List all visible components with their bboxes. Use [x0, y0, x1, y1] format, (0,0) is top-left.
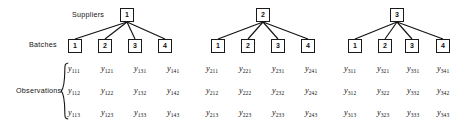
observation-y332: y332	[407, 86, 419, 95]
observation-y112: y112	[68, 86, 80, 95]
batch-box-1-2[interactable]: 2	[98, 39, 112, 53]
batch-box-2-1[interactable]: 1	[211, 39, 225, 53]
observation-y113: y113	[68, 108, 80, 117]
supplier-box-1[interactable]: 1	[120, 8, 134, 22]
observation-y313: y313	[344, 108, 356, 117]
observation-y123: y123	[101, 108, 113, 117]
observation-y211: y211	[206, 64, 218, 73]
observation-y122: y122	[101, 86, 113, 95]
observation-y232: y232	[272, 86, 284, 95]
observation-y342: y342	[437, 86, 449, 95]
observation-y142: y142	[167, 86, 179, 95]
batch-box-1-4[interactable]: 4	[158, 39, 172, 53]
observation-y143: y143	[167, 108, 179, 117]
row-label-suppliers: Suppliers	[72, 10, 104, 19]
observation-y311: y311	[344, 64, 356, 73]
row-label-observations: Observations	[16, 86, 61, 95]
batch-box-3-4[interactable]: 4	[436, 39, 450, 53]
batch-box-3-2[interactable]: 2	[378, 39, 392, 53]
observation-y132: y132	[134, 86, 146, 95]
observation-y121: y121	[101, 64, 113, 73]
batch-box-2-4[interactable]: 4	[301, 39, 315, 53]
observation-y222: y222	[239, 86, 251, 95]
batch-box-3-1[interactable]: 1	[348, 39, 362, 53]
observation-y233: y233	[272, 108, 284, 117]
observation-y341: y341	[437, 64, 449, 73]
observation-y131: y131	[134, 64, 146, 73]
batch-box-2-3[interactable]: 3	[271, 39, 285, 53]
observation-y343: y343	[437, 108, 449, 117]
observation-y213: y213	[206, 108, 218, 117]
observation-y321: y321	[377, 64, 389, 73]
observation-y331: y331	[407, 64, 419, 73]
batch-box-1-1[interactable]: 1	[68, 39, 82, 53]
observation-y212: y212	[206, 86, 218, 95]
observation-y241: y241	[305, 64, 317, 73]
observation-y141: y141	[167, 64, 179, 73]
observation-y133: y133	[134, 108, 146, 117]
observation-y221: y221	[239, 64, 251, 73]
row-label-batches: Batches	[29, 40, 57, 49]
observation-y111: y111	[68, 64, 80, 73]
batch-box-1-3[interactable]: 3	[128, 39, 142, 53]
observation-y242: y242	[305, 86, 317, 95]
batch-box-3-3[interactable]: 3	[405, 39, 419, 53]
observation-y223: y223	[239, 108, 251, 117]
nested-design-diagram: Suppliers Batches Observations 1 2 3 1 2…	[0, 0, 462, 132]
observation-y312: y312	[344, 86, 356, 95]
batch-box-2-2[interactable]: 2	[241, 39, 255, 53]
observation-y333: y333	[407, 108, 419, 117]
observation-y231: y231	[272, 64, 284, 73]
supplier-box-2[interactable]: 2	[256, 8, 270, 22]
observation-y322: y322	[377, 86, 389, 95]
observation-y243: y243	[305, 108, 317, 117]
observation-y323: y323	[377, 108, 389, 117]
supplier-box-3[interactable]: 3	[390, 8, 404, 22]
